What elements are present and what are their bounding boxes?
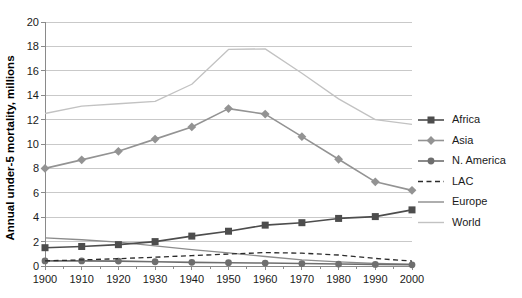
line-chart: 02468101214161820 1900191019201930194019… <box>0 0 522 298</box>
x-axis-tick-label: 1910 <box>69 273 93 285</box>
y-axis-tick-label: 6 <box>33 187 39 199</box>
legend-label-europe: Europe <box>452 195 487 207</box>
y-axis-tick-label: 8 <box>33 162 39 174</box>
y-axis-tick-label: 20 <box>27 16 39 28</box>
y-axis-tick-label: 2 <box>33 236 39 248</box>
data-series-layer <box>41 49 417 268</box>
x-axis-tick-label: 1900 <box>33 273 57 285</box>
legend-label-asia: Asia <box>452 134 474 146</box>
y-axis-tick-label: 18 <box>27 40 39 52</box>
legend-item-africa[interactable]: Africa <box>418 113 481 125</box>
legend-marker-africa <box>428 117 435 124</box>
y-axis-tick-labels: 02468101214161820 <box>27 16 39 272</box>
y-axis-tick-label: 0 <box>33 260 39 272</box>
chart-figure: 02468101214161820 1900191019201930194019… <box>0 0 522 298</box>
y-axis-tick-label: 14 <box>27 89 39 101</box>
series-africa <box>42 206 416 251</box>
x-axis-tick-label: 1920 <box>106 273 130 285</box>
y-axis-tick-label: 4 <box>33 211 39 223</box>
x-axis-tick-label: 1990 <box>363 273 387 285</box>
y-axis-tick-label: 16 <box>27 65 39 77</box>
legend-label-n-america: N. America <box>452 154 507 166</box>
legend-label-africa: Africa <box>452 113 481 125</box>
legend-item-asia[interactable]: Asia <box>418 134 474 146</box>
series-asia <box>41 104 417 195</box>
legend-label-world: World <box>452 216 481 228</box>
x-axis-tick-label: 1980 <box>326 273 350 285</box>
y-axis-tick-label: 12 <box>27 114 39 126</box>
legend-label-lac: LAC <box>452 175 473 187</box>
legend-marker-n-america <box>428 158 435 165</box>
chart-legend: AfricaAsiaN. AmericaLACEuropeWorld <box>418 113 507 228</box>
y-axis-tick-label: 10 <box>27 138 39 150</box>
legend-item-world[interactable]: World <box>418 216 481 228</box>
x-axis-tick-labels: 1900191019201930194019501960197019801990… <box>33 273 424 285</box>
series-world <box>45 49 412 125</box>
x-axis-tick-label: 1970 <box>290 273 314 285</box>
x-axis-tick-label: 2000 <box>400 273 424 285</box>
legend-item-n-america[interactable]: N. America <box>418 154 507 166</box>
legend-item-europe[interactable]: Europe <box>418 195 487 207</box>
x-axis-tick-label: 1950 <box>216 273 240 285</box>
legend-marker-asia <box>427 136 436 145</box>
x-axis-tick-label: 1960 <box>253 273 277 285</box>
legend-item-lac[interactable]: LAC <box>418 175 473 187</box>
y-axis-title: Annual under-5 mortality, millions <box>4 55 16 240</box>
x-axis-tick-label: 1940 <box>180 273 204 285</box>
x-axis-tick-label: 1930 <box>143 273 167 285</box>
